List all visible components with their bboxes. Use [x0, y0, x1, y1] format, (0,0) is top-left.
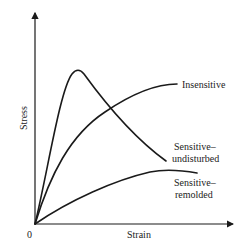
label-sensitive-remolded-line1: Sensitive–	[174, 177, 217, 188]
label-sensitive-undisturbed-line2: undisturbed	[172, 153, 219, 164]
stress-strain-diagram: Insensitive Sensitive– undisturbed Sensi…	[0, 0, 236, 251]
label-insensitive: Insensitive	[182, 79, 226, 90]
curve-sensitive-undisturbed	[35, 70, 166, 224]
x-axis-label: Strain	[127, 229, 151, 240]
origin-label: 0	[27, 229, 32, 240]
curve-sensitive-remolded	[35, 170, 197, 224]
label-sensitive-remolded-line2: remolded	[175, 189, 213, 200]
label-sensitive-undisturbed-line1: Sensitive–	[174, 141, 217, 152]
y-axis-label: Stress	[18, 106, 29, 130]
